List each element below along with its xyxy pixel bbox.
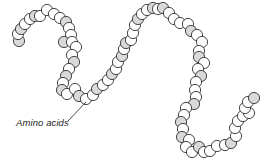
label-leader-line xyxy=(68,102,86,121)
amino-acid-chain xyxy=(0,0,264,162)
amino-acids-label: Amino acids xyxy=(16,117,69,128)
amino-acid-bead xyxy=(248,92,259,103)
amino-acid-beads xyxy=(12,2,259,157)
polypeptide-diagram: Amino acids xyxy=(0,0,264,162)
